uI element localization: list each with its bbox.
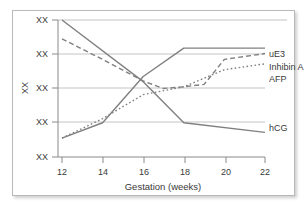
x-tick-label-3: 18 [180,167,190,177]
series-label-inhibin-a: Inhibin A [269,62,304,72]
x-tick-label-5: 22 [260,167,270,177]
y-tick-label-1: XX [36,49,48,59]
y-axis-title: XX [20,82,30,94]
x-tick-label-4: 20 [221,167,231,177]
x-tick-marks [62,157,265,163]
y-tick-label-3: XX [36,117,48,127]
y-tick-labels: XX XX XX XX XX [36,15,48,162]
series-line-hcg [62,20,265,132]
y-tick-label-2: XX [36,83,48,93]
x-tick-labels: 12 14 16 18 20 22 [57,167,270,177]
line-chart: XX XX XX XX XX XX 12 14 16 18 20 22 Gest… [0,0,307,211]
series-line-inhibin-a [62,39,265,89]
x-tick-label-2: 16 [139,167,149,177]
figure-root: XX XX XX XX XX XX 12 14 16 18 20 22 Gest… [0,0,307,211]
series-label-hcg: hCG [269,123,288,133]
series-label-afp: AFP [269,74,287,84]
y-tick-marks [52,20,58,157]
x-axis-title: Gestation (weeks) [125,181,202,192]
y-tick-label-0: XX [36,15,48,25]
series-label-ue3: uE3 [269,49,285,59]
y-tick-label-4: XX [36,152,48,162]
gridlines [58,20,287,122]
series-group [62,20,265,138]
x-tick-label-1: 14 [98,167,108,177]
series-line-ue3 [62,48,265,138]
series-labels: uE3 Inhibin A AFP hCG [269,49,304,133]
x-tick-label-0: 12 [57,167,67,177]
